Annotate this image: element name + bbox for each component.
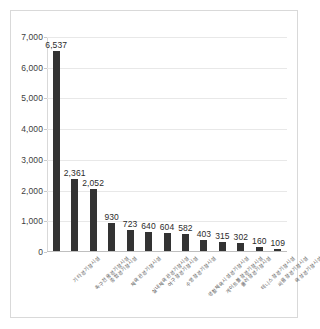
- y-axis-tick-mark: [44, 221, 47, 222]
- y-axis-tick-label: 4,000: [21, 124, 43, 134]
- bar-column[interactable]: 6,537: [53, 37, 60, 252]
- y-axis-tick-mark: [44, 129, 47, 130]
- bar-value-label: 723: [123, 219, 137, 229]
- plot-area: 01,0002,0003,0004,0005,0006,0007,000 6,5…: [47, 37, 287, 252]
- bar-column[interactable]: 930: [108, 37, 115, 252]
- y-axis-tick-label: 0: [38, 247, 43, 257]
- y-axis-tick-label: 1,000: [21, 216, 43, 226]
- bar-column[interactable]: 2,052: [90, 37, 97, 252]
- bar-value-label: 2,052: [82, 178, 104, 188]
- bar-value-label: 930: [104, 212, 118, 222]
- bar-column[interactable]: 302: [237, 37, 244, 252]
- y-axis-tick-label: 5,000: [21, 93, 43, 103]
- y-axis-tick-mark: [44, 98, 47, 99]
- bar-value-label: 403: [197, 229, 211, 239]
- y-axis-tick-mark: [44, 160, 47, 161]
- bar-column[interactable]: 403: [200, 37, 207, 252]
- bar[interactable]: [164, 233, 171, 252]
- y-axis-tick-mark: [44, 252, 47, 253]
- bar[interactable]: [145, 232, 152, 252]
- bar[interactable]: [90, 189, 97, 252]
- y-axis-tick-mark: [44, 68, 47, 69]
- y-axis-tick-label: 2,000: [21, 186, 43, 196]
- bar-value-label: 109: [271, 238, 285, 248]
- bar-value-label: 582: [178, 223, 192, 233]
- bar-column[interactable]: 315: [219, 37, 226, 252]
- y-axis-tick-label: 3,000: [21, 155, 43, 165]
- bar-value-label: 315: [215, 231, 229, 241]
- bar-value-label: 302: [234, 232, 248, 242]
- y-axis-tick-mark: [44, 191, 47, 192]
- bar-column[interactable]: 2,361: [71, 37, 78, 252]
- bar-value-label: 640: [141, 221, 155, 231]
- bar[interactable]: [127, 230, 134, 252]
- y-axis-tick-label: 6,000: [21, 63, 43, 73]
- bar[interactable]: [53, 51, 60, 252]
- y-axis-spine: [47, 37, 48, 252]
- bar-value-label: 6,537: [45, 40, 67, 50]
- x-axis-category-labels: 기타경기장시설축구전용경기장시설종합경기장시설체육관경기장시설실내체육관경기장시…: [47, 254, 287, 316]
- bar[interactable]: [108, 223, 115, 252]
- x-axis-line: [47, 251, 287, 252]
- bar-value-label: 604: [160, 222, 174, 232]
- bar[interactable]: [182, 234, 189, 252]
- chart-container: 01,0002,0003,0004,0005,0006,0007,000 6,5…: [10, 10, 298, 318]
- bar-column[interactable]: 582: [182, 37, 189, 252]
- bar-value-label: 2,361: [64, 168, 86, 178]
- y-axis-tick-label: 7,000: [21, 32, 43, 42]
- bar-column[interactable]: 640: [145, 37, 152, 252]
- x-axis-category-label: 기타경기장시설: [71, 254, 101, 284]
- y-axis-tick-mark: [44, 37, 47, 38]
- bar[interactable]: [71, 179, 78, 252]
- bar-column[interactable]: 604: [164, 37, 171, 252]
- bar-value-label: 160: [252, 236, 266, 246]
- bar-column[interactable]: 109: [274, 37, 281, 252]
- bar-column[interactable]: 160: [256, 37, 263, 252]
- bar-column[interactable]: 723: [127, 37, 134, 252]
